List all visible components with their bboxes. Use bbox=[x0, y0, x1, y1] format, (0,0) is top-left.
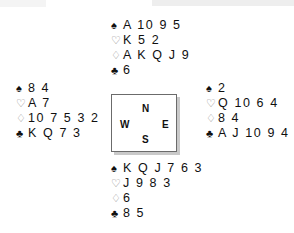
hand-west-hearts-row: ♡ A 7 bbox=[16, 96, 100, 111]
hand-west-diamonds-row: ♢ 10 7 5 3 2 bbox=[16, 111, 100, 126]
hand-north-spades-row: ♠ A 10 9 5 bbox=[111, 18, 190, 33]
hand-north-diamonds: A K Q J 9 bbox=[122, 48, 190, 63]
hand-west-hearts: A 7 bbox=[27, 96, 51, 111]
hand-west: ♠ 8 4 ♡ A 7 ♢ 10 7 5 3 2 ♣ K Q 7 3 bbox=[16, 81, 100, 141]
hand-west-spades: 8 4 bbox=[27, 81, 50, 96]
hand-south-hearts-row: ♡ J 9 8 3 bbox=[111, 176, 203, 191]
spade-icon: ♠ bbox=[16, 81, 27, 96]
club-icon: ♣ bbox=[16, 126, 27, 141]
hand-north-diamonds-row: ♢ A K Q J 9 bbox=[111, 48, 190, 63]
hand-east-hearts-row: ♡ Q 10 6 4 bbox=[206, 96, 294, 111]
hand-east-hearts: Q 10 6 4 bbox=[217, 96, 279, 111]
hand-east-spades: 2 bbox=[217, 81, 227, 96]
compass-label-north: N bbox=[142, 104, 149, 114]
hand-east-diamonds: 8 4 bbox=[217, 111, 240, 126]
hand-south-spades: K Q J 7 6 3 bbox=[122, 161, 203, 176]
hand-north-hearts: K 5 2 bbox=[122, 33, 160, 48]
hand-west-clubs-row: ♣ K Q 7 3 bbox=[16, 126, 100, 141]
scan-artifact-right bbox=[152, 0, 294, 6]
hand-north-spades: A 10 9 5 bbox=[122, 18, 182, 33]
hand-north-clubs: 6 bbox=[122, 63, 132, 78]
hand-east-clubs-row: ♣ A J 10 9 4 2 bbox=[206, 126, 294, 141]
hand-west-diamonds: 10 7 5 3 2 bbox=[27, 111, 100, 126]
diamond-icon: ♢ bbox=[111, 48, 122, 63]
hand-south-clubs: 8 5 bbox=[122, 206, 145, 221]
compass-label-south: S bbox=[142, 135, 149, 145]
club-icon: ♣ bbox=[206, 126, 217, 141]
heart-icon: ♡ bbox=[206, 96, 217, 111]
spade-icon: ♠ bbox=[111, 18, 122, 33]
hand-east-clubs: A J 10 9 4 2 bbox=[217, 126, 294, 141]
hand-south-hearts: J 9 8 3 bbox=[122, 176, 172, 191]
diamond-icon: ♢ bbox=[206, 111, 217, 126]
compass-box-frame: N W E S bbox=[111, 94, 177, 152]
scan-artifact-left bbox=[0, 0, 46, 7]
hand-south-diamonds-row: ♢ 6 bbox=[111, 191, 203, 206]
compass-label-west: W bbox=[120, 120, 129, 130]
hand-east: ♠ 2 ♡ Q 10 6 4 ♢ 8 4 ♣ A J 10 9 4 2 bbox=[206, 81, 294, 141]
heart-icon: ♡ bbox=[111, 33, 122, 48]
club-icon: ♣ bbox=[111, 63, 122, 78]
heart-icon: ♡ bbox=[111, 176, 122, 191]
hand-west-clubs: K Q 7 3 bbox=[27, 126, 82, 141]
hand-south-diamonds: 6 bbox=[122, 191, 132, 206]
club-icon: ♣ bbox=[111, 206, 122, 221]
hand-south: ♠ K Q J 7 6 3 ♡ J 9 8 3 ♢ 6 ♣ 8 5 bbox=[111, 161, 203, 221]
hand-west-spades-row: ♠ 8 4 bbox=[16, 81, 100, 96]
diamond-icon: ♢ bbox=[111, 191, 122, 206]
hand-north-hearts-row: ♡ K 5 2 bbox=[111, 33, 190, 48]
spade-icon: ♠ bbox=[111, 161, 122, 176]
compass-box: N W E S bbox=[111, 94, 177, 152]
bridge-deal-diagram: ♠ A 10 9 5 ♡ K 5 2 ♢ A K Q J 9 ♣ 6 ♠ 8 4… bbox=[0, 0, 294, 233]
compass-label-east: E bbox=[162, 120, 169, 130]
hand-south-spades-row: ♠ K Q J 7 6 3 bbox=[111, 161, 203, 176]
hand-east-spades-row: ♠ 2 bbox=[206, 81, 294, 96]
hand-north: ♠ A 10 9 5 ♡ K 5 2 ♢ A K Q J 9 ♣ 6 bbox=[111, 18, 190, 78]
heart-icon: ♡ bbox=[16, 96, 27, 111]
diamond-icon: ♢ bbox=[16, 111, 27, 126]
hand-south-clubs-row: ♣ 8 5 bbox=[111, 206, 203, 221]
spade-icon: ♠ bbox=[206, 81, 217, 96]
hand-north-clubs-row: ♣ 6 bbox=[111, 63, 190, 78]
hand-east-diamonds-row: ♢ 8 4 bbox=[206, 111, 294, 126]
